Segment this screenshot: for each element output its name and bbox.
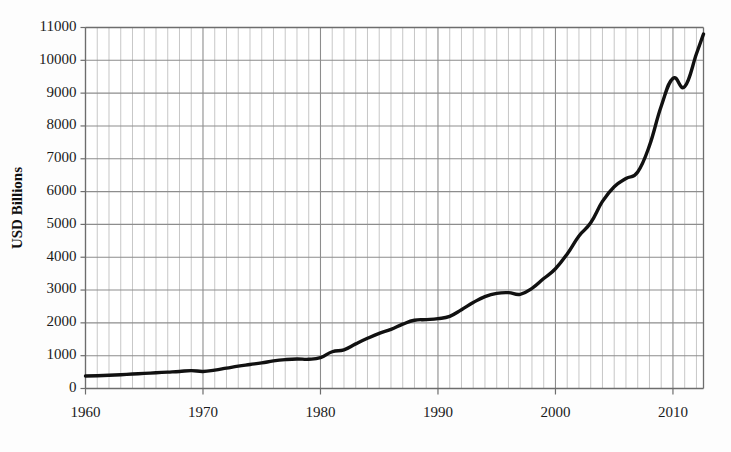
x-tick-label: 1970	[188, 404, 218, 420]
y-tick-label: 8000	[47, 116, 77, 132]
x-tick-label: 1960	[71, 404, 101, 420]
y-tick-label: 11000	[40, 18, 77, 34]
y-tick-label: 1000	[47, 346, 77, 362]
y-tick-label: 4000	[47, 248, 77, 264]
y-tick-label: 3000	[47, 280, 77, 296]
x-tick-label: 1990	[423, 404, 453, 420]
x-tick-label: 2000	[540, 404, 570, 420]
x-tick-label: 2010	[658, 404, 688, 420]
y-tick-label: 9000	[47, 84, 77, 100]
y-tick-label: 0	[69, 379, 77, 395]
y-tick-label: 5000	[47, 215, 77, 231]
chart-container: 0100020003000400050006000700080009000100…	[0, 0, 731, 452]
y-axis-title: USD Billions	[9, 167, 25, 249]
y-tick-label: 2000	[47, 313, 77, 329]
plot-area-background	[86, 28, 704, 389]
y-tick-label: 6000	[47, 182, 77, 198]
y-tick-label: 10000	[39, 51, 77, 67]
y-tick-label: 7000	[47, 149, 77, 165]
x-tick-label: 1980	[305, 404, 335, 420]
line-chart: 0100020003000400050006000700080009000100…	[0, 0, 731, 452]
